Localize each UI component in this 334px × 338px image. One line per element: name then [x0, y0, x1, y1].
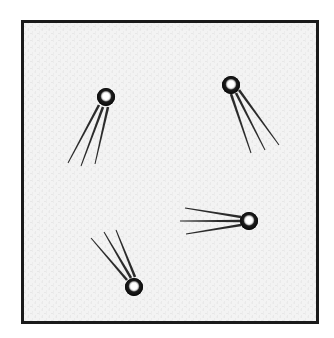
- square-border-frame: [23, 22, 318, 323]
- comet-head-highlight: [97, 88, 115, 106]
- figure-canvas: [0, 0, 334, 338]
- comet-head-highlight: [240, 212, 258, 230]
- comet-diagram: [0, 0, 334, 338]
- comet-head-highlight: [222, 76, 240, 94]
- frame-interior: [23, 22, 318, 323]
- comet-head-highlight: [125, 278, 143, 296]
